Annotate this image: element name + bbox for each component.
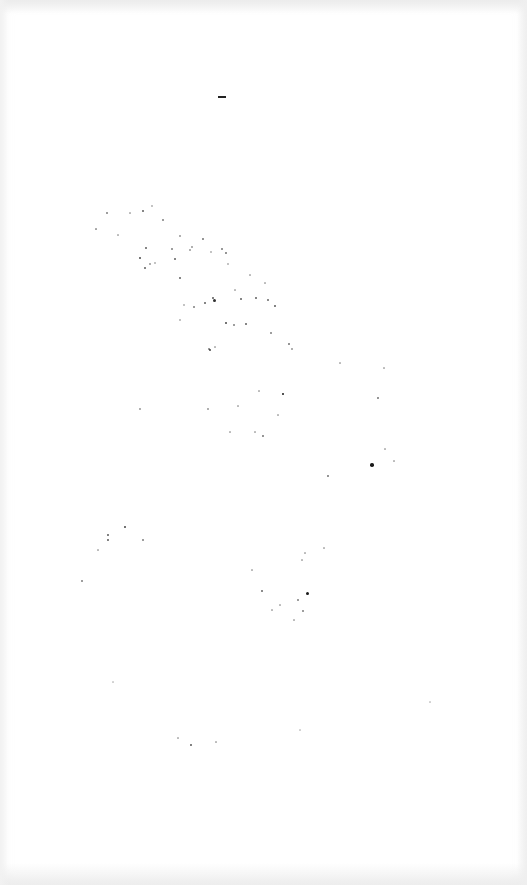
speckle-dot — [251, 569, 252, 570]
speckle-dot — [291, 348, 292, 349]
speckle-dot — [154, 262, 155, 263]
speckle-dot — [282, 393, 285, 396]
speckle-dot — [274, 305, 276, 307]
speckle-dot — [209, 349, 211, 351]
speckle-dot — [261, 590, 263, 592]
speckle-dot — [293, 619, 294, 620]
speckle-dot — [162, 219, 164, 221]
speckle-dot — [339, 362, 340, 363]
speckle-dot — [124, 526, 126, 528]
speckle-dot — [179, 235, 180, 236]
speckle-dot — [249, 274, 250, 275]
speckle-dot — [149, 263, 150, 264]
speckle-dot — [139, 408, 140, 409]
speckle-dot — [189, 249, 191, 251]
speckle-dot — [144, 267, 146, 269]
speckle-dot — [299, 729, 300, 730]
speckle-dot — [277, 414, 278, 415]
speckle-dot — [202, 238, 204, 240]
speckle-dot — [204, 302, 206, 304]
speckle-dot — [383, 367, 384, 368]
speckle-dot — [297, 599, 299, 601]
speckle-dot — [234, 289, 235, 290]
speckle-dot — [288, 343, 290, 345]
speckle-dot — [179, 277, 181, 279]
speckle-dot — [429, 701, 430, 702]
speckle-dot — [171, 248, 173, 250]
speckle-dot — [215, 741, 216, 742]
speckle-dot — [254, 431, 255, 432]
speckle-dot — [107, 534, 109, 536]
speckle-dot — [174, 258, 176, 260]
speckle-dot — [229, 431, 230, 432]
speckle-dot — [227, 263, 228, 264]
speckle-dot — [129, 212, 130, 213]
speckle-dot — [377, 397, 379, 399]
speckle-dot — [106, 212, 108, 214]
speckle-dot — [225, 322, 227, 324]
speckle-dot — [262, 435, 264, 437]
speckle-dot — [301, 559, 302, 560]
speckle-dot — [190, 744, 192, 746]
speckle-dot — [193, 306, 195, 308]
speckle-dot — [279, 604, 280, 605]
speckle-dot — [370, 463, 374, 467]
speckle-dot — [270, 332, 272, 334]
speckle-dot — [210, 251, 211, 252]
speckle-dot — [237, 405, 238, 406]
speckle-dot — [117, 234, 118, 235]
speckle-dot — [323, 547, 324, 548]
speckle-dot — [304, 552, 305, 553]
speckle-dot — [264, 282, 265, 283]
speckle-dot — [267, 299, 269, 301]
speckle-dot — [306, 592, 309, 595]
speckle-dot — [191, 246, 192, 247]
speckle-dot — [97, 549, 98, 550]
speckle-dot — [233, 324, 235, 326]
speckle-dot — [151, 205, 152, 206]
speckle-dot — [81, 580, 83, 582]
speckle-dot — [179, 319, 180, 320]
speckle-dot — [95, 228, 96, 229]
speckle-dot — [207, 408, 208, 409]
speckle-dot — [107, 539, 109, 541]
speckle-dot — [245, 323, 247, 325]
speckle-dot — [225, 252, 227, 254]
speckle-dot — [142, 210, 144, 212]
speckle-dot — [258, 390, 259, 391]
speckle-dot — [255, 297, 257, 299]
speckle-noise-layer — [0, 0, 527, 885]
speckle-dot — [271, 609, 272, 610]
speckle-dot — [177, 737, 178, 738]
speckle-dot — [139, 257, 141, 259]
speckle-dot — [145, 247, 147, 249]
speckle-dot — [384, 448, 385, 449]
speckle-dot — [327, 475, 329, 477]
speckle-dot — [142, 539, 144, 541]
speckle-dot — [302, 610, 304, 612]
speckle-dot — [221, 248, 223, 250]
speckle-dot — [213, 299, 216, 302]
blank-page — [0, 0, 527, 885]
speckle-dot — [183, 304, 184, 305]
speckle-dot — [112, 681, 113, 682]
speckle-dot — [214, 346, 215, 347]
speckle-dot — [240, 298, 242, 300]
speckle-dot — [393, 460, 394, 461]
